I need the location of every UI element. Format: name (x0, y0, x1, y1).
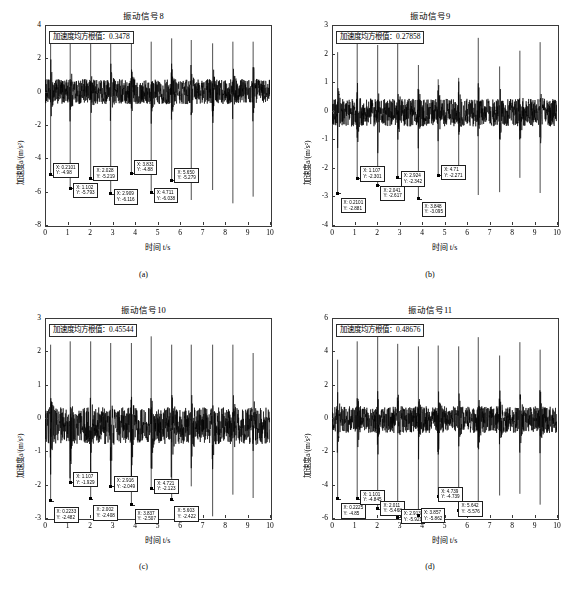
datatip-marker[interactable] (69, 481, 72, 484)
x-axis-tick-mark (270, 515, 271, 518)
datatip-y-value: Y: -3.095 (425, 209, 443, 215)
x-axis-tick-mark (68, 222, 69, 225)
datatip-marker[interactable] (356, 177, 359, 180)
datatip-marker[interactable] (109, 485, 112, 488)
datatip-y-value: Y: -2.881 (344, 206, 364, 212)
datatip-marker[interactable] (336, 192, 339, 195)
x-axis-tick-mark (135, 222, 136, 225)
datatip-y-value: Y: -2.422 (177, 514, 195, 520)
datatip-marker[interactable] (170, 179, 173, 182)
datatip-box[interactable]: X: 4.711Y: -6.038 (154, 188, 178, 203)
panel-a-title: 振动信号8 (0, 9, 287, 21)
y-axis-tick-mark (45, 58, 48, 59)
datatip-marker[interactable] (170, 498, 173, 501)
datatip-marker[interactable] (150, 487, 153, 490)
x-axis-tick-label: 10 (551, 228, 563, 237)
y-axis-tick-label: -8 (19, 220, 41, 229)
datatip-box[interactable]: X: 4.739Y: -4.739 (438, 487, 462, 502)
datatip-y-value: Y: -2.617 (383, 193, 401, 199)
datatip-x-value: X: 2.028 (96, 168, 114, 174)
datatip-marker[interactable] (396, 516, 399, 519)
datatip-box[interactable]: X: 2.924Y: -2.342 (401, 171, 425, 186)
y-axis-tick-label: -2 (19, 120, 41, 129)
x-axis-tick-mark (45, 222, 46, 225)
y-axis-tick-mark (332, 485, 335, 486)
x-axis-tick-label: 8 (219, 228, 231, 237)
y-axis-tick-mark (332, 418, 335, 419)
x-axis-tick-label: 2 (84, 228, 96, 237)
y-axis-tick-label: 0 (306, 106, 328, 115)
datatip-box[interactable]: X: 2.002Y: -2.408 (93, 505, 117, 520)
datatip-marker[interactable] (376, 507, 379, 510)
datatip-marker[interactable] (437, 174, 440, 177)
datatip-box[interactable]: X: 3.848Y: -3.095 (422, 202, 446, 217)
y-axis-tick-mark (332, 451, 335, 452)
datatip-box[interactable]: X: 4.71Y: -2.271 (441, 165, 465, 180)
datatip-box[interactable]: X: 5.650Y: -5.279 (174, 168, 198, 183)
datatip-marker[interactable] (417, 197, 420, 200)
datatip-marker[interactable] (130, 503, 133, 506)
x-axis-tick-label: 0 (326, 521, 338, 530)
datatip-marker[interactable] (49, 499, 52, 502)
y-axis-tick-label: -2 (19, 480, 41, 489)
datatip-box[interactable]: X: 0.2225Y: -4.85 (341, 503, 367, 518)
x-axis-tick-mark (355, 222, 356, 225)
datatip-box[interactable]: X: 2.041Y: -2.617 (380, 186, 404, 201)
x-axis-tick-mark (377, 515, 378, 518)
datatip-box[interactable]: X: 2.028Y: -5.219 (93, 166, 117, 181)
datatip-y-value: Y: -4.739 (441, 494, 459, 500)
datatip-box[interactable]: X: 3.837Y: -2.507 (135, 509, 159, 524)
datatip-marker[interactable] (89, 497, 92, 500)
x-axis-tick-label: 1 (62, 228, 74, 237)
datatip-box[interactable]: X: 0.2101Y: -4.98 (53, 163, 79, 178)
datatip-box[interactable]: X: 1.107Y: -2.301 (360, 166, 384, 181)
datatip-box[interactable]: X: 1.102Y: -5.793 (73, 183, 97, 198)
x-axis-tick-mark (332, 222, 333, 225)
x-axis-tick-mark (422, 222, 423, 225)
datatip-marker[interactable] (49, 173, 52, 176)
x-axis-tick-mark (45, 515, 46, 518)
datatip-y-value: Y: -6.038 (157, 196, 175, 202)
x-axis-tick-label: 6 (174, 521, 186, 530)
datatip-box[interactable]: X: 1.107Y: -1.929 (73, 472, 97, 487)
datatip-y-value: Y: -2.507 (138, 516, 156, 522)
y-axis-tick-label: 2 (306, 49, 328, 58)
y-axis-tick-mark (45, 385, 48, 386)
datatip-y-value: Y: -5.862 (424, 516, 442, 522)
y-axis-tick-label: -6 (306, 513, 328, 522)
y-axis-tick-mark (332, 196, 335, 197)
datatip-y-value: Y: -4.98 (56, 170, 76, 176)
datatip-y-value: Y: -5.279 (177, 175, 195, 181)
datatip-y-value: Y: -5.468 (383, 508, 401, 514)
datatip-marker[interactable] (376, 184, 379, 187)
datatip-marker[interactable] (396, 176, 399, 179)
x-axis-tick-mark (512, 515, 513, 518)
datatip-box[interactable]: X: 4.721Y: -2.123 (154, 479, 178, 494)
x-axis-tick-mark (557, 222, 558, 225)
datatip-box[interactable]: X: 0.2101Y: -2.881 (341, 198, 367, 213)
y-axis-tick-mark (45, 92, 48, 93)
x-axis-tick-label: 6 (174, 228, 186, 237)
datatip-marker[interactable] (109, 192, 112, 195)
datatip-box[interactable]: X: 3.857Y: -5.862 (421, 508, 445, 523)
datatip-box[interactable]: X: 3.831Y: -4.88 (134, 160, 157, 175)
datatip-marker[interactable] (356, 497, 359, 500)
datatip-y-value: Y: -2.408 (96, 513, 114, 519)
datatip-marker[interactable] (150, 191, 153, 194)
datatip-marker[interactable] (130, 172, 133, 175)
y-axis-tick-mark (332, 168, 335, 169)
datatip-box[interactable]: X: 5.642Y: -5.576 (458, 501, 482, 516)
datatip-box[interactable]: X: 5.603Y: -2.422 (174, 506, 198, 521)
datatip-y-value: Y: -1.929 (76, 480, 94, 486)
datatip-box[interactable]: X: 0.2233Y: -2.482 (54, 507, 80, 522)
datatip-marker[interactable] (89, 177, 92, 180)
x-axis-tick-mark (225, 222, 226, 225)
datatip-marker[interactable] (69, 187, 72, 190)
y-axis-tick-label: 2 (19, 346, 41, 355)
datatip-marker[interactable] (336, 497, 339, 500)
datatip-box[interactable]: X: 2.909Y: -6.116 (114, 189, 138, 204)
x-axis-tick-label: 7 (484, 521, 496, 530)
x-axis-tick-mark (180, 222, 181, 225)
datatip-marker[interactable] (417, 514, 420, 517)
datatip-box[interactable]: X: 2.916Y: -2.049 (114, 476, 138, 491)
